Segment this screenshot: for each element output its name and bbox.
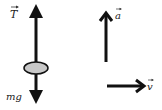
svg-text:a: a xyxy=(115,10,121,21)
svg-text:T: T xyxy=(10,8,19,21)
body-ellipse xyxy=(24,62,48,74)
acceleration-label: a xyxy=(115,8,122,21)
tension-label: T xyxy=(10,6,19,22)
weight-label: mg xyxy=(6,91,22,102)
weight-arrow xyxy=(29,72,43,104)
acceleration-arrow xyxy=(100,13,112,62)
velocity-label: v xyxy=(147,79,154,92)
velocity-arrow xyxy=(107,80,144,92)
free-body-diagram: T mg a v xyxy=(0,0,162,110)
tension-arrow xyxy=(29,4,43,64)
svg-text:v: v xyxy=(147,81,153,92)
